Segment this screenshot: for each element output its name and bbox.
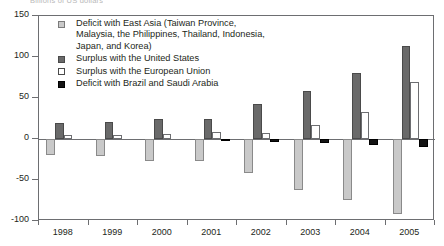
bar	[369, 139, 378, 145]
bar	[46, 139, 55, 155]
chart-container: Billions of US dollars 150100500-50-100 …	[0, 0, 444, 246]
bar	[303, 91, 312, 139]
y-tick-label: -50	[0, 173, 29, 183]
y-tick-label: 0	[0, 132, 29, 142]
x-tick-label: 2003	[286, 227, 336, 237]
legend-label: Surplus with the European Union	[76, 66, 265, 77]
x-tick-mark	[385, 220, 386, 225]
bar	[212, 132, 221, 139]
x-tick-mark	[434, 220, 435, 225]
legend-swatch-icon	[58, 56, 65, 63]
x-tick-mark	[88, 220, 89, 225]
legend-swatch-icon	[58, 68, 65, 75]
bar	[244, 139, 253, 173]
legend-label: Malaysia, the Philippines, Thailand, Ind…	[76, 29, 265, 40]
bar	[145, 139, 154, 161]
bar	[270, 139, 279, 142]
x-tick-label: 1999	[88, 227, 138, 237]
x-tick-mark	[187, 220, 188, 225]
chart-subtitle: Billions of US dollars	[30, 0, 103, 3]
x-tick-label: 2005	[385, 227, 435, 237]
x-tick-label: 2002	[236, 227, 286, 237]
bar	[204, 119, 213, 140]
x-tick-mark	[38, 220, 39, 225]
bar	[343, 139, 352, 200]
bar	[311, 125, 320, 139]
bar	[410, 82, 419, 139]
bar	[195, 139, 204, 161]
chart-legend: Deficit with East Asia (Taiwan Province,…	[58, 18, 265, 90]
bar	[361, 112, 370, 139]
bar	[320, 139, 329, 143]
bar	[154, 119, 163, 140]
bar	[253, 104, 262, 139]
bar	[113, 135, 122, 139]
legend-label: Deficit with Brazil and Saudi Arabia	[76, 78, 265, 89]
x-tick-label: 2004	[335, 227, 385, 237]
legend-label: Japan, and Korea)	[76, 41, 265, 52]
legend-label: Surplus with the United States	[76, 53, 265, 64]
legend-item: Surplus with the United States	[58, 53, 265, 64]
bar	[393, 139, 402, 214]
x-tick-label: 1998	[38, 227, 88, 237]
legend-item: Surplus with the European Union	[58, 66, 265, 77]
x-tick-label: 2000	[137, 227, 187, 237]
bar	[294, 139, 303, 190]
y-tick-label: 100	[0, 50, 29, 60]
bar	[96, 139, 105, 156]
bar	[262, 133, 271, 139]
bar	[64, 135, 73, 139]
x-tick-mark	[286, 220, 287, 225]
y-tick-label: -100	[0, 214, 29, 224]
legend-label: Deficit with East Asia (Taiwan Province,	[76, 18, 265, 29]
bar	[419, 139, 428, 147]
bar	[402, 46, 411, 139]
bar	[221, 139, 230, 141]
legend-item: Deficit with East Asia (Taiwan Province,…	[58, 18, 265, 52]
x-tick-mark	[335, 220, 336, 225]
bar	[352, 73, 361, 139]
y-tick-label: 150	[0, 9, 29, 19]
x-tick-label: 2001	[187, 227, 237, 237]
bar	[163, 134, 172, 139]
legend-swatch-icon	[58, 21, 65, 28]
x-tick-mark	[137, 220, 138, 225]
bar	[55, 123, 64, 139]
y-tick-label: 50	[0, 91, 29, 101]
bar	[105, 122, 114, 139]
x-tick-mark	[236, 220, 237, 225]
legend-item: Deficit with Brazil and Saudi Arabia	[58, 78, 265, 89]
legend-swatch-icon	[58, 81, 65, 88]
